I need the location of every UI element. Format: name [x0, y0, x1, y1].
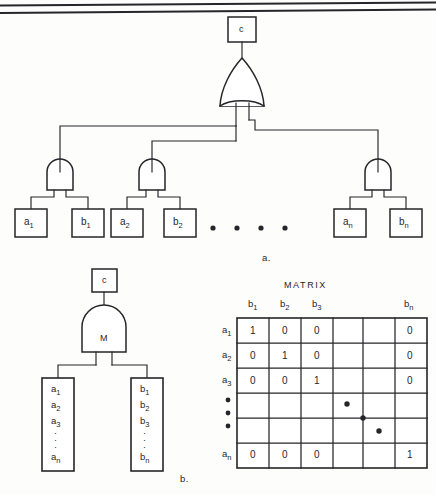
matrix-cell-r1c0: 0 — [250, 351, 256, 361]
matrix-col-header-b1: b1 — [248, 299, 257, 312]
matrix-cell-r2c2: 1 — [314, 376, 320, 386]
and1-input-right — [66, 190, 88, 209]
stack-a-item-n: an — [51, 452, 60, 465]
m-gate-wire-right — [112, 365, 147, 378]
matrix-title: MATRIX — [284, 281, 327, 290]
matrix-col-header-bn: bn — [404, 299, 413, 312]
stack-b-item-3: b3 — [140, 416, 149, 429]
input-box-bn-label: bn — [399, 217, 409, 230]
matrix-cell-r1c5: 0 — [407, 351, 413, 361]
input-box-b1-label: b1 — [81, 217, 91, 230]
andn-input-right — [384, 190, 406, 209]
figure-page: c a1 b1 a2 b2 an bn a. c M a1 a2 a3 ··· … — [0, 0, 436, 495]
stack-b-item-2: b2 — [140, 400, 149, 413]
matrix-row-header-a3: a3 — [222, 375, 231, 388]
matrix-row-header-a2: a2 — [222, 350, 231, 363]
m-gate-body — [82, 305, 126, 352]
matrix-cell-r0c0: 1 — [250, 326, 256, 336]
input-box-an-label: an — [343, 217, 353, 230]
input-box-a1-label: a1 — [24, 217, 34, 230]
matrix-cell-r1c2: 0 — [314, 351, 320, 361]
m-gate-label: M — [100, 334, 108, 343]
ellipsis-dots-figure-a — [210, 225, 287, 230]
matrix-cell-r2c0: 0 — [250, 376, 256, 386]
matrix-cell-r0c1: 0 — [282, 326, 288, 336]
matrix-cell-r1c1: 1 — [282, 351, 288, 361]
header-rule-bottom — [0, 10, 436, 14]
and2-input-left — [127, 190, 146, 209]
input-box-b2-label: b2 — [173, 217, 183, 230]
stack-a-item-1: a1 — [51, 384, 60, 397]
matrix-cell-r5c2: 0 — [314, 450, 320, 460]
header-rule-top — [0, 3, 436, 6]
or-gate-body — [220, 58, 264, 106]
matrix-cell-r0c5: 0 — [407, 326, 413, 336]
andn-input-left — [350, 190, 372, 209]
stack-a-item-3: a3 — [51, 416, 60, 429]
stack-b-item-1: b1 — [140, 384, 149, 397]
stack-b-ellipsis: ··· — [143, 430, 146, 451]
matrix-row-header-an: an — [222, 449, 231, 462]
and1-input-left — [31, 190, 54, 209]
figure-a-caption: a. — [262, 253, 271, 263]
matrix-col-header-b2: b2 — [280, 299, 289, 312]
input-box-a2-label: a2 — [120, 217, 130, 230]
bus-left-to-gate2 — [152, 141, 236, 159]
and2-input-right — [158, 190, 180, 209]
matrix-cell-r5c1: 0 — [282, 450, 288, 460]
matrix-cell-r2c5: 0 — [407, 376, 413, 386]
matrix-grid — [237, 318, 427, 468]
matrix-cell-r2c1: 0 — [282, 376, 288, 386]
matrix-col-header-b3: b3 — [312, 299, 321, 312]
matrix-row-header-a1: a1 — [222, 325, 231, 338]
m-gate-wire-left — [58, 365, 96, 378]
output-box-c-b-label: c — [102, 276, 107, 285]
figure-vector-layer — [0, 0, 436, 495]
bus-left-to-gate1 — [60, 126, 236, 159]
figure-b-caption: b. — [180, 474, 189, 484]
bus-right-to-gaten — [249, 120, 378, 159]
matrix-row-ellipsis-dots — [226, 398, 231, 429]
matrix-cell-r0c2: 0 — [314, 326, 320, 336]
matrix-cell-r5c5: 1 — [407, 450, 413, 460]
stack-a-item-2: a2 — [51, 400, 60, 413]
stack-a-ellipsis: ··· — [54, 430, 57, 451]
output-box-c-a-label: c — [239, 25, 244, 34]
stack-b-item-n: bn — [140, 452, 149, 465]
matrix-cell-r5c0: 0 — [250, 450, 256, 460]
